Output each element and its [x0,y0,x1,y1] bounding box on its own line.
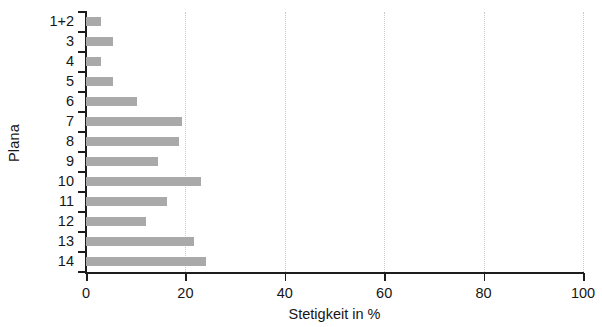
y-axis-tick [78,251,86,253]
bar [86,217,146,226]
y-axis-tick [78,51,86,53]
x-axis-tick-label: 20 [162,286,208,301]
bar-row [86,92,583,112]
bar-row [86,72,583,92]
y-axis-tick-label: 5 [28,74,74,89]
y-axis-tick-label: 9 [28,154,74,169]
bar-row [86,172,583,192]
bar-chart: Plana 1+234567891011121314 Stetigkeit in… [0,0,602,327]
y-axis-tick [78,211,86,213]
y-axis-tick [78,11,86,13]
x-axis-tick-label: 60 [361,286,407,301]
bar [86,177,201,186]
y-axis-title-label: Plana [6,123,22,161]
y-axis-tick-label: 13 [28,234,74,249]
bar-row [86,132,583,152]
y-axis-tick [78,231,86,233]
y-axis-tick [78,191,86,193]
y-axis-tick-label: 4 [28,54,74,69]
x-axis-tick [86,273,88,281]
bar-row [86,32,583,52]
bar-row [86,12,583,32]
bar-row [86,112,583,132]
x-axis-tick [583,273,585,281]
x-axis-tick-label: 0 [63,286,109,301]
y-axis-tick-label: 7 [28,114,74,129]
y-axis-tick [78,151,86,153]
x-axis-title: Stetigkeit in % [86,306,583,322]
bar-row [86,212,583,232]
plot-area [86,12,583,272]
y-axis-tick-label: 14 [28,254,74,269]
bar-row [86,52,583,72]
y-axis-tick-labels: 1+234567891011121314 [26,0,74,285]
bar [86,57,101,66]
bar [86,37,113,46]
bar-row [86,252,583,272]
bar [86,157,158,166]
y-axis-tick-label: 10 [28,174,74,189]
x-axis-tick [185,273,187,281]
y-axis-tick-label: 3 [28,34,74,49]
y-axis-tick-label: 11 [28,194,74,209]
bar [86,117,182,126]
bar [86,257,206,266]
x-axis-tick [384,273,386,281]
gridline [583,12,585,272]
bar-row [86,192,583,212]
x-axis-tick-label: 80 [461,286,507,301]
x-axis-tick-label: 40 [262,286,308,301]
y-axis-tick [78,31,86,33]
bar [86,77,113,86]
bar [86,237,194,246]
bar-row [86,152,583,172]
y-axis-tick [78,131,86,133]
bar-row [86,232,583,252]
bar [86,97,137,106]
y-axis-tick-label: 6 [28,94,74,109]
x-axis-tick-label: 100 [560,286,602,301]
bar [86,17,101,26]
y-axis-tick-label: 12 [28,214,74,229]
y-axis-title: Plana [0,0,28,285]
y-axis-tick [78,71,86,73]
y-axis-tick [78,271,86,273]
x-axis-tick [484,273,486,281]
x-axis-line [85,272,584,274]
y-axis-tick-label: 1+2 [28,14,74,29]
bar [86,197,167,206]
y-axis-tick [78,91,86,93]
y-axis-tick-label: 8 [28,134,74,149]
bar [86,137,179,146]
x-axis-tick [285,273,287,281]
y-axis-tick [78,111,86,113]
y-axis-tick [78,171,86,173]
